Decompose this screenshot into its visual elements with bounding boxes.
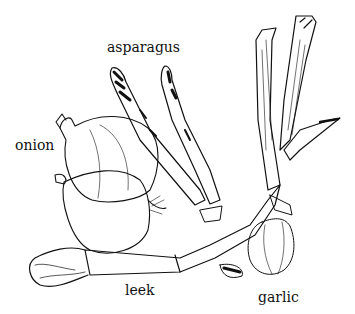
label-asparagus: asparagus [107, 40, 180, 54]
asparagus-spears [110, 66, 220, 205]
label-onion: onion [15, 138, 54, 152]
onion-bulbs [55, 114, 166, 253]
garlic-bulb [220, 195, 294, 278]
leek-leaves [256, 16, 340, 190]
label-leek: leek [125, 283, 155, 297]
label-garlic: garlic [258, 290, 299, 304]
illustration: asparagus onion leek garlic [0, 0, 355, 314]
